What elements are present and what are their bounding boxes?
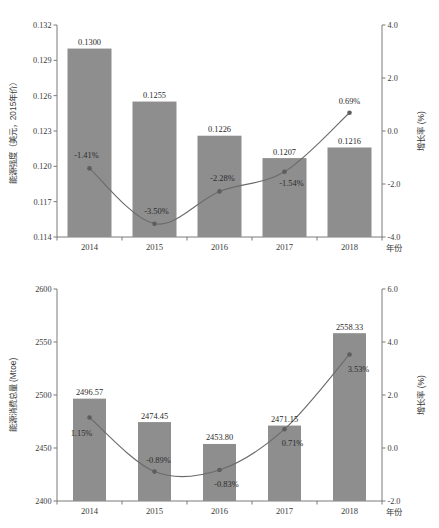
y-axis-left-tick-label: 2400 <box>35 497 51 506</box>
bar-value-label: 2474.45 <box>141 412 168 421</box>
y-axis-right-tick-label: 6.0 <box>388 285 398 294</box>
chart-page: 0.1140.1170.1200.1230.1260.1290.132-4.0-… <box>0 0 439 528</box>
growth-rate-label: 0.71% <box>282 439 304 448</box>
y-axis-right-tick-label: 0.0 <box>388 127 398 136</box>
y-axis-left-tick-label: 0.114 <box>33 233 51 242</box>
growth-rate-marker <box>347 110 352 115</box>
growth-rate-label: -3.50% <box>144 207 168 216</box>
bar-value-label: 2496.57 <box>76 388 103 397</box>
x-axis-title: 年份 <box>386 507 403 517</box>
y-axis-right-title: 增长率 (%) <box>416 111 426 151</box>
y-axis-right-tick-label: 4.0 <box>388 21 398 30</box>
x-axis-tick-label: 2014 <box>81 506 99 516</box>
y-axis-left-tick-label: 2450 <box>35 444 51 453</box>
y-axis-left-tick-label: 0.132 <box>33 21 51 30</box>
x-axis-tick-label: 2017 <box>276 242 294 252</box>
y-axis-left-tick-label: 2600 <box>35 285 51 294</box>
growth-rate-marker <box>282 170 287 175</box>
x-axis-tick-label: 2015 <box>146 242 163 252</box>
chart-energy-consumption: 24002450250025502600-2.00.02.04.06.02014… <box>0 264 439 528</box>
y-axis-right-tick-label: -2.0 <box>388 497 401 506</box>
bar <box>68 49 112 237</box>
y-axis-left-title: 能源消费总量 (Mtoe) <box>8 358 18 433</box>
x-axis-tick-label: 2018 <box>341 242 358 252</box>
x-axis-tick-label: 2016 <box>211 242 229 252</box>
bar-value-label: 2558.33 <box>336 323 363 332</box>
growth-rate-label: -2.28% <box>210 174 234 183</box>
x-axis-tick-label: 2018 <box>341 506 358 516</box>
y-axis-left-tick-label: 0.123 <box>33 127 51 136</box>
growth-rate-label: -1.54% <box>279 179 303 188</box>
growth-rate-label: 3.53% <box>348 365 370 374</box>
bar-value-label: 0.1300 <box>78 38 101 47</box>
growth-rate-marker <box>152 221 157 226</box>
y-axis-left-tick-label: 0.129 <box>33 56 51 65</box>
bar <box>328 147 372 237</box>
x-axis-tick-label: 2015 <box>146 506 163 516</box>
y-axis-right-tick-label: 4.0 <box>388 338 398 347</box>
bar <box>333 333 366 501</box>
bar-value-label: 0.1207 <box>273 148 296 157</box>
x-axis-tick-label: 2014 <box>81 242 99 252</box>
bar-value-label: 2453.80 <box>206 433 233 442</box>
growth-rate-marker <box>87 166 92 171</box>
y-axis-right-tick-label: 2.0 <box>388 391 398 400</box>
bar <box>73 399 106 501</box>
y-axis-right-title: 增长率 (%) <box>416 375 426 415</box>
x-axis-tick-label: 2017 <box>276 506 294 516</box>
y-axis-left-title: 能源强度（美元，2015年价） <box>8 78 18 185</box>
y-axis-left-tick-label: 2550 <box>35 338 51 347</box>
y-axis-left-tick-label: 0.126 <box>33 92 51 101</box>
growth-rate-label: 0.69% <box>339 97 361 106</box>
bar-value-label: 0.1226 <box>208 125 231 134</box>
x-axis-tick-label: 2016 <box>211 506 229 516</box>
bar-value-label: 0.1255 <box>143 91 166 100</box>
growth-rate-label: -0.83% <box>214 480 238 489</box>
growth-rate-label: 1.15% <box>71 429 93 438</box>
y-axis-left-tick-label: 0.117 <box>33 198 51 207</box>
growth-rate-label: -0.89% <box>146 456 170 465</box>
growth-rate-marker <box>347 352 352 357</box>
growth-rate-marker <box>87 415 92 420</box>
y-axis-right-tick-label: -4.0 <box>388 233 401 242</box>
bar-value-label: 2471.15 <box>271 415 298 424</box>
chart-svg-energy-consumption: 24002450250025502600-2.00.02.04.06.02014… <box>0 264 439 528</box>
y-axis-right-tick-label: 0.0 <box>388 444 398 453</box>
growth-rate-marker <box>217 468 222 473</box>
y-axis-right-tick-label: 2.0 <box>388 74 398 83</box>
growth-rate-marker <box>282 427 287 432</box>
chart-energy-intensity: 0.1140.1170.1200.1230.1260.1290.132-4.0-… <box>0 0 439 264</box>
y-axis-left-tick-label: 0.120 <box>33 162 51 171</box>
growth-rate-marker <box>217 189 222 194</box>
bar <box>203 444 236 501</box>
y-axis-right-tick-label: -2.0 <box>388 180 401 189</box>
bar-value-label: 0.1216 <box>338 137 361 146</box>
x-axis-title: 年份 <box>386 243 403 253</box>
y-axis-left-tick-label: 2500 <box>35 391 51 400</box>
growth-rate-label: -1.41% <box>74 151 98 160</box>
chart-svg-energy-intensity: 0.1140.1170.1200.1230.1260.1290.132-4.0-… <box>0 0 439 264</box>
growth-rate-marker <box>152 469 157 474</box>
bar <box>268 426 301 501</box>
